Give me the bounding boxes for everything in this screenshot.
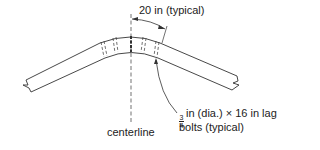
bolt-5b	[157, 42, 159, 57]
dimension-arrow-right	[158, 25, 165, 29]
bolt-spec-line2: bolts (typical)	[179, 121, 244, 133]
bolt-leader-line	[156, 60, 177, 113]
beam-bottom-edge	[31, 53, 232, 93]
bolt-1a	[101, 42, 104, 57]
bolt-1b	[104, 41, 107, 56]
left-break-symbol	[23, 80, 31, 92]
right-break-symbol	[232, 76, 239, 90]
bolt-2b	[116, 37, 118, 52]
bolt-5a	[154, 41, 156, 56]
leader-arrowhead	[154, 58, 158, 64]
centerline-label: centerline	[107, 126, 155, 138]
bolt-4b	[144, 38, 146, 53]
bolt-spec-line1: in (dia.) × 16 in lag	[186, 107, 277, 119]
dimension-label: 20 in (typical)	[139, 4, 204, 16]
bolt-2a	[113, 38, 115, 53]
dimension-arrow-left	[132, 17, 138, 21]
bolt-4a	[141, 37, 143, 52]
